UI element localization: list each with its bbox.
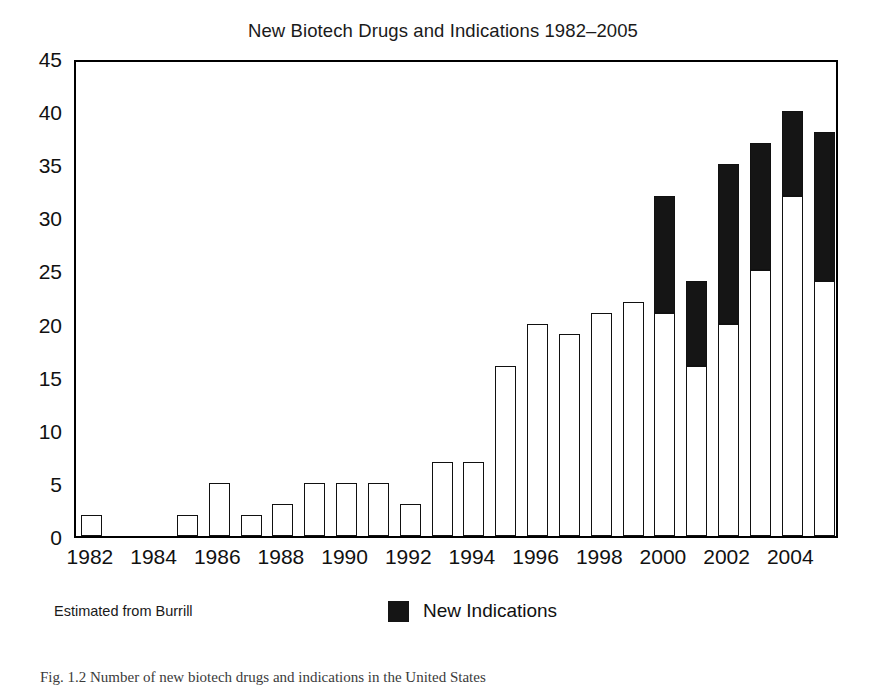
- y-tick-label: 10: [39, 420, 62, 444]
- x-tick-label: 1992: [385, 545, 432, 569]
- bar-segment-new-drugs: [432, 462, 453, 536]
- x-tick-label: 2002: [703, 545, 750, 569]
- bar-segment-new-drugs: [272, 504, 293, 536]
- bar-1990: [336, 483, 357, 536]
- bar-segment-new-drugs: [209, 483, 230, 536]
- y-tick-label: 0: [50, 526, 62, 550]
- bar-segment-new-drugs: [81, 515, 102, 536]
- bar-2005: [814, 132, 835, 536]
- bar-segment-new-drugs: [654, 313, 675, 536]
- chart-legend: New Indications: [388, 600, 557, 622]
- legend-label-new-indications: New Indications: [423, 600, 557, 622]
- x-tick-label: 1988: [258, 545, 305, 569]
- bar-segment-new-drugs: [750, 270, 771, 536]
- bar-2000: [654, 196, 675, 536]
- y-tick-label: 20: [39, 314, 62, 338]
- y-tick-label: 45: [39, 48, 62, 72]
- bar-1991: [368, 483, 389, 536]
- bar-segment-new-drugs: [559, 334, 580, 536]
- bar-segment-new-drugs: [527, 324, 548, 536]
- bar-segment-new-drugs: [495, 366, 516, 536]
- y-tick-label: 15: [39, 367, 62, 391]
- bar-segment-new-drugs: [686, 366, 707, 536]
- x-tick-label: 1996: [512, 545, 559, 569]
- bar-segment-new-drugs: [241, 515, 262, 536]
- bar-1986: [209, 483, 230, 536]
- x-tick-label: 1984: [130, 545, 177, 569]
- bar-2003: [750, 143, 771, 536]
- chart-title: New Biotech Drugs and Indications 1982–2…: [0, 20, 886, 42]
- bar-segment-new-indications: [654, 196, 675, 313]
- bar-1995: [495, 366, 516, 536]
- bar-segment-new-drugs: [718, 324, 739, 536]
- bar-segment-new-drugs: [463, 462, 484, 536]
- bar-segment-new-drugs: [177, 515, 198, 536]
- y-tick-label: 5: [50, 473, 62, 497]
- bar-1993: [432, 462, 453, 536]
- y-axis: 051015202530354045: [0, 0, 74, 684]
- bar-2004: [782, 111, 803, 536]
- bar-2002: [718, 164, 739, 536]
- y-tick-label: 30: [39, 207, 62, 231]
- bar-segment-new-drugs: [782, 196, 803, 536]
- x-tick-label: 2004: [767, 545, 814, 569]
- x-tick-label: 1986: [194, 545, 241, 569]
- bar-segment-new-drugs: [336, 483, 357, 536]
- bar-segment-new-drugs: [304, 483, 325, 536]
- x-tick-label: 1998: [576, 545, 623, 569]
- bar-1994: [463, 462, 484, 536]
- bar-2001: [686, 281, 707, 536]
- bar-segment-new-drugs: [591, 313, 612, 536]
- bar-segment-new-indications: [782, 111, 803, 196]
- bar-segment-new-indications: [814, 132, 835, 281]
- x-tick-label: 1982: [67, 545, 114, 569]
- bar-segment-new-drugs: [400, 504, 421, 536]
- bar-segment-new-drugs: [368, 483, 389, 536]
- bar-segment-new-drugs: [814, 281, 835, 536]
- x-axis: 1982198419861988199019921994199619982000…: [74, 545, 838, 585]
- bar-1987: [241, 515, 262, 536]
- bar-1982: [81, 515, 102, 536]
- bar-segment-new-drugs: [623, 302, 644, 536]
- x-tick-label: 2000: [640, 545, 687, 569]
- x-tick-label: 1994: [449, 545, 496, 569]
- bar-1992: [400, 504, 421, 536]
- bar-1997: [559, 334, 580, 536]
- bar-1985: [177, 515, 198, 536]
- bar-segment-new-indications: [686, 281, 707, 366]
- y-tick-label: 40: [39, 101, 62, 125]
- x-tick-label: 1990: [321, 545, 368, 569]
- bar-1989: [304, 483, 325, 536]
- plot-area: [74, 60, 838, 538]
- bar-1999: [623, 302, 644, 536]
- legend-swatch-new-indications: [388, 601, 409, 622]
- y-tick-label: 35: [39, 154, 62, 178]
- figure-caption: Fig. 1.2 Number of new biotech drugs and…: [40, 669, 860, 686]
- y-tick-label: 25: [39, 260, 62, 284]
- bar-1988: [272, 504, 293, 536]
- bar-1998: [591, 313, 612, 536]
- bars-layer: [76, 62, 836, 536]
- bar-segment-new-indications: [750, 143, 771, 270]
- chart-footnote: Estimated from Burrill: [54, 603, 193, 619]
- bar-segment-new-indications: [718, 164, 739, 323]
- bar-1996: [527, 324, 548, 536]
